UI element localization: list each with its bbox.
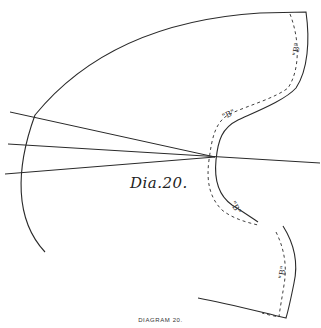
construction-line-3 [5, 157, 215, 174]
pattern-drawing [0, 0, 321, 328]
diagram-caption: DIAGRAM 20. [0, 317, 321, 323]
pattern-diagram: "B" "B" "B" "B" Dia.20. DIAGRAM 20. [0, 0, 321, 328]
handwritten-diagram-label: Dia.20. [130, 174, 188, 192]
outer-outline [21, 12, 308, 252]
construction-line-2 [8, 144, 320, 163]
